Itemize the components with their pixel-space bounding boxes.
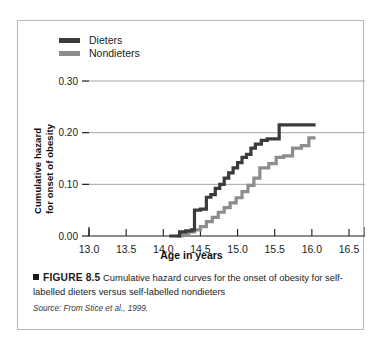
y-axis-title-line2: for onset of obesity	[44, 124, 55, 214]
x-tick-group	[89, 229, 349, 236]
x-axis-title: Age in years	[18, 249, 365, 261]
figure-caption: FIGURE 8.5 Cumulative hazard curves for …	[33, 271, 353, 298]
y-tick-label-0: 0.00	[59, 231, 79, 242]
gridlines-group	[89, 81, 365, 236]
caption-square-marker	[33, 274, 39, 280]
figure-source-note: Source: From Stice et al., 1999.	[33, 304, 353, 313]
y-tick-group	[82, 81, 89, 236]
figure-container: Dieters Nondieters 0.000.100.200.30 13.0…	[17, 20, 364, 330]
data-series-group	[169, 125, 315, 236]
figure-caption-block: FIGURE 8.5 Cumulative hazard curves for …	[33, 271, 353, 313]
chart-canvas: 0.000.100.200.30 13.013.514.014.515.015.…	[18, 21, 365, 269]
series-line-nondieters	[177, 138, 316, 236]
plot-area: 0.000.100.200.30 13.013.514.014.515.015.…	[18, 21, 365, 269]
y-axis-title: Cumulative hazard for onset of obesity	[32, 84, 62, 214]
y-axis-title-line1: Cumulative hazard	[32, 128, 43, 214]
figure-number-label: FIGURE 8.5	[43, 272, 100, 283]
series-line-dieters	[169, 125, 315, 236]
